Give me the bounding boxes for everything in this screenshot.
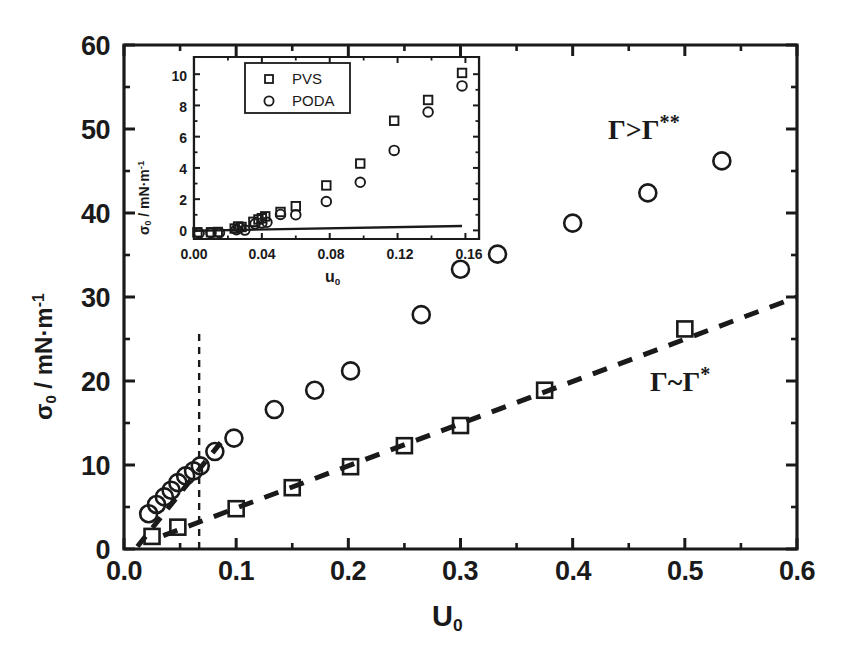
annotation-gamma-gt-gamma-double-star: Γ>Γ** [608,111,680,146]
inset-xtick-label: 0.04 [237,246,287,262]
inset-xtick-label: 0.08 [306,246,356,262]
inset-ytick-label: 8 [157,99,187,115]
main-xtick-label: 0.1 [196,556,276,587]
inset-ytick-label: 6 [157,130,187,146]
inset-xaxis-title: u0 [325,268,340,287]
inset-xtick-label: 0.12 [375,246,425,262]
inset-ytick-label: 4 [157,161,187,177]
inset-ytick-label: 2 [157,192,187,208]
main-xtick-label: 0.4 [533,556,613,587]
main-ytick-label: 50 [48,115,110,146]
main-xtick-label: 0.6 [757,556,837,587]
main-yaxis-title: σ0 / mN·m-1 [30,293,59,420]
main-xtick-label: 0.3 [420,556,500,587]
main-xtick-label: 0.2 [308,556,388,587]
main-xaxis-title: U0 [432,600,463,636]
inset-ytick-label: 10 [157,68,187,84]
inset-legend-label-poda: PODA [292,92,335,109]
main-ytick-label: 40 [48,199,110,230]
inset-ytick-label: 0 [157,223,187,239]
inset-xtick-label: 0.16 [444,246,494,262]
main-xtick-label: 0.5 [645,556,725,587]
main-ytick-label: 10 [48,451,110,482]
inset-legend-label-pvs: PVS [292,70,322,87]
main-xtick-label: 0.0 [84,556,164,587]
annotation-gamma-sim-gamma-star: Γ~Γ* [650,363,710,398]
figure-root: 60 50 40 30 20 10 0 0.0 0.1 0.2 0.3 0.4 … [0,0,844,665]
inset-xtick-label: 0.00 [169,246,219,262]
main-ytick-label: 60 [48,31,110,62]
inset-yaxis-title: σ0 / mN·m-1 [135,161,153,235]
